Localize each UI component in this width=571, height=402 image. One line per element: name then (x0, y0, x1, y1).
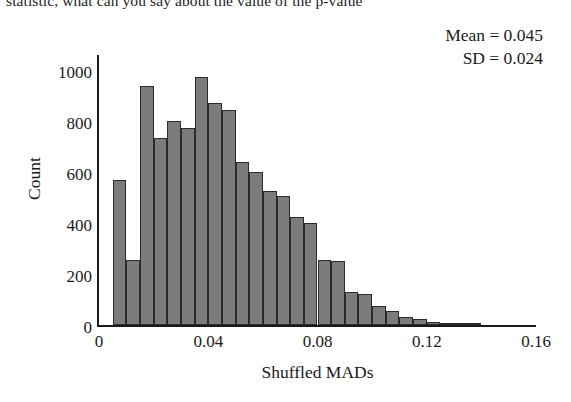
plot-area (99, 55, 536, 325)
x-tick-label: 0.04 (193, 333, 223, 350)
histogram-bar (222, 110, 236, 325)
histogram-bars (99, 55, 536, 325)
histogram-bar (154, 138, 168, 325)
histogram-bar (167, 121, 181, 325)
annotation-mean: Mean = 0.045 (445, 24, 543, 47)
histogram-bar (345, 292, 359, 325)
x-tick-label: 0.16 (521, 333, 551, 350)
y-tick-label: 0 (32, 319, 92, 336)
histogram-bar (372, 306, 386, 325)
page-body-text: statistic, what can you say about the va… (0, 0, 571, 11)
histogram-bar (318, 260, 332, 325)
histogram-bar (468, 323, 482, 325)
histogram-bar (386, 311, 400, 325)
x-axis-line (97, 325, 536, 327)
page-body-text-clipped: statistic, what can you say about the va… (0, 0, 571, 13)
histogram-bar (427, 322, 441, 325)
histogram-bar (249, 172, 263, 325)
histogram-bar (181, 128, 195, 325)
histogram-bar (195, 77, 209, 325)
histogram-bar (236, 162, 250, 325)
histogram-bar (331, 261, 345, 325)
histogram-bar (454, 323, 468, 325)
histogram-bar (413, 319, 427, 325)
histogram-bar (208, 103, 222, 325)
histogram-bar (358, 294, 372, 325)
histogram-bar (304, 223, 318, 325)
histogram-bar (440, 323, 454, 325)
histogram-bar (263, 191, 277, 325)
y-tick-label: 1000 (32, 64, 92, 81)
x-tick-label: 0 (95, 333, 104, 350)
histogram-bar (126, 260, 140, 325)
y-tick-label: 200 (32, 268, 92, 285)
histogram-bar (399, 317, 413, 325)
x-tick-label: 0.12 (412, 333, 442, 350)
histogram-bar (277, 196, 291, 325)
y-axis-label: Count (24, 124, 45, 234)
x-axis-label: Shuffled MADs (99, 362, 536, 383)
x-tick-label: 0.08 (303, 333, 333, 350)
histogram-figure: statistic, what can you say about the va… (0, 0, 571, 402)
histogram-bar (290, 217, 304, 325)
x-axis-ticks: 00.040.080.120.16 (99, 333, 536, 355)
histogram-bar (140, 86, 154, 325)
histogram-bar (113, 180, 127, 325)
